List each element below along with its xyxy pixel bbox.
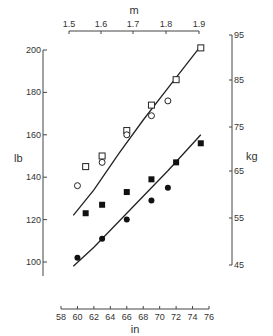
open-circle-marker xyxy=(165,98,171,104)
open-circle-marker xyxy=(74,183,80,189)
filled-circle-marker xyxy=(148,198,154,204)
y2-tick-label: 55 xyxy=(234,213,244,223)
x2-axis-label: m xyxy=(129,4,138,16)
x-tick-label: 64 xyxy=(105,312,115,322)
filled-circle-marker xyxy=(165,185,171,191)
chart: 100120140160180200lb958575655545kg1.51.6… xyxy=(0,0,273,336)
open-square-marker xyxy=(99,153,105,159)
filled-square-marker xyxy=(124,189,130,195)
y2-axis-label: kg xyxy=(246,150,258,162)
filled-square-marker xyxy=(148,176,154,182)
x-tick-label: 70 xyxy=(155,312,165,322)
open-square-marker xyxy=(173,77,179,83)
x2-tick-label: 1.7 xyxy=(127,19,140,29)
y-axis-label: lb xyxy=(14,152,23,164)
open-circle-marker xyxy=(124,132,130,138)
y-tick-label: 100 xyxy=(26,257,41,267)
x2-tick-label: 1.9 xyxy=(193,19,206,29)
open-circle-marker xyxy=(148,113,154,119)
x-tick-label: 74 xyxy=(188,312,198,322)
upper-fit-curve xyxy=(73,46,201,216)
x2-tick-label: 1.6 xyxy=(95,19,108,29)
open-square-marker xyxy=(83,164,89,170)
y-tick-label: 200 xyxy=(26,45,41,55)
open-circle-marker xyxy=(99,159,105,165)
open-square-marker xyxy=(148,102,154,108)
filled-square-marker xyxy=(83,210,89,216)
open-square-marker xyxy=(198,45,204,51)
x2-tick-label: 1.8 xyxy=(160,19,173,29)
y-tick-label: 160 xyxy=(26,130,41,140)
x-tick-label: 60 xyxy=(72,312,82,322)
y2-tick-label: 65 xyxy=(234,166,244,176)
y-tick-label: 140 xyxy=(26,172,41,182)
y-tick-label: 120 xyxy=(26,215,41,225)
filled-circle-marker xyxy=(124,217,130,223)
y2-tick-label: 85 xyxy=(234,75,244,85)
filled-circle-marker xyxy=(99,236,105,242)
x-tick-label: 68 xyxy=(138,312,148,322)
x-tick-label: 72 xyxy=(171,312,181,322)
y2-tick-label: 75 xyxy=(234,122,244,132)
filled-square-marker xyxy=(173,159,179,165)
x-tick-label: 66 xyxy=(122,312,132,322)
x-tick-label: 58 xyxy=(56,312,66,322)
x-axis-label: in xyxy=(131,323,140,335)
x-tick-label: 76 xyxy=(204,312,214,322)
filled-square-marker xyxy=(198,140,204,146)
filled-square-marker xyxy=(99,202,105,208)
y2-tick-label: 45 xyxy=(234,260,244,270)
x2-tick-label: 1.5 xyxy=(63,19,76,29)
filled-circle-marker xyxy=(74,255,80,261)
lower-fit-curve xyxy=(73,135,201,266)
y2-tick-label: 95 xyxy=(234,30,244,40)
x-tick-label: 62 xyxy=(89,312,99,322)
y-tick-label: 180 xyxy=(26,87,41,97)
